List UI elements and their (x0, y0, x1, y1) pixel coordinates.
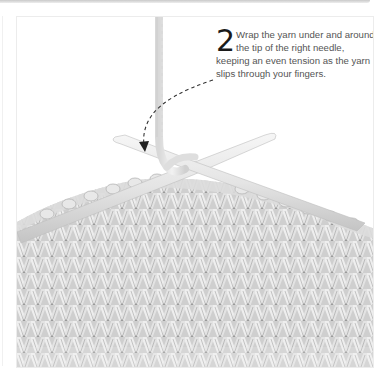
page-gutter-line (2, 16, 3, 366)
step-caption: 2 Wrap the yarn under and around the tip… (216, 28, 374, 80)
direction-arrow (139, 80, 213, 152)
previous-page-edge (0, 0, 370, 3)
step-number: 2 (216, 29, 235, 53)
stockinette-fabric (17, 174, 374, 368)
yarn-strand (157, 17, 195, 172)
instruction-panel: 2 Wrap the yarn under and around the tip… (16, 16, 374, 368)
step-instruction-text: Wrap the yarn under and around the tip o… (216, 29, 374, 79)
